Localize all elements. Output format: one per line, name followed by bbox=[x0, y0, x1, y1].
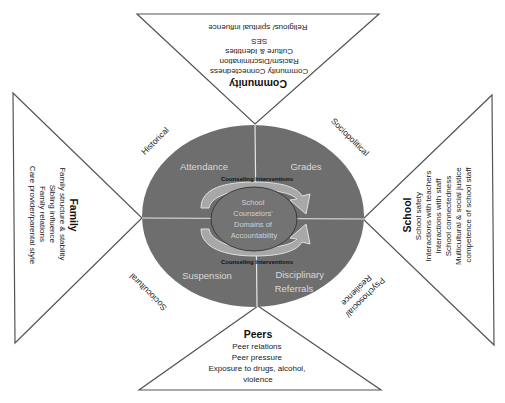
quadrant-attendance: Attendance bbox=[180, 161, 228, 172]
ecological-diagram: School Counselors' Domains of Accountabi… bbox=[0, 0, 505, 403]
peers-title: Peers bbox=[244, 328, 273, 340]
counseling-interventions-bottom: Counseling Interventions bbox=[221, 259, 294, 265]
family-title: Family bbox=[68, 198, 80, 231]
context-historical: Historical bbox=[139, 125, 171, 157]
counseling-interventions-top: Counseling Interventions bbox=[221, 176, 294, 182]
context-sociocultural: Sociocultural bbox=[127, 271, 169, 313]
context-psychosocial-resilience: Psychosocial/ Resilience bbox=[334, 268, 387, 321]
quadrant-suspension: Suspension bbox=[182, 270, 232, 281]
school-title: School bbox=[401, 197, 413, 232]
context-sociopolitical: Sociopolitical bbox=[329, 116, 371, 158]
community-title: Community bbox=[229, 78, 287, 90]
center-ellipse bbox=[211, 187, 297, 251]
quadrant-grades: Grades bbox=[290, 161, 321, 172]
